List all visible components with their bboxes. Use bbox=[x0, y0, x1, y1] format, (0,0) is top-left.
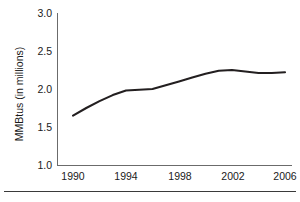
plot-area bbox=[0, 0, 300, 202]
footer-rule bbox=[4, 191, 296, 192]
data-line-mmbtus bbox=[73, 70, 285, 116]
chart-figure: MMBtus (in millions) 3.0 2.5 2.0 1.5 1.0… bbox=[0, 0, 300, 202]
